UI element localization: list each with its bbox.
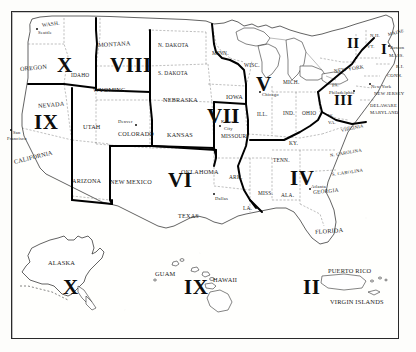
state-label: KANSAS: [167, 131, 193, 138]
city-label: Denver: [118, 119, 133, 124]
state-label: ARK.: [229, 174, 243, 180]
state-label: ALA.: [281, 192, 294, 198]
state-label: COLORADO: [118, 130, 154, 137]
city-label: New York: [371, 84, 391, 89]
region-numeral: I: [381, 42, 387, 57]
state-label: N. DAKOTA: [158, 42, 189, 48]
state-label: WISC.: [244, 62, 260, 68]
city-label: Francisco: [7, 136, 27, 141]
region-numeral: V: [256, 74, 272, 95]
state-label: IDAHO: [71, 72, 89, 78]
region-numeral: X: [57, 55, 73, 76]
city-label: Dallas: [215, 196, 228, 201]
region-numeral: IV: [290, 168, 314, 189]
state-label: MICH.: [283, 79, 299, 85]
state-label: NEW JERSEY: [374, 91, 404, 96]
inset-region-numeral: IX: [184, 277, 208, 298]
city-dot: [10, 129, 12, 131]
state-label: PA.: [332, 82, 340, 88]
state-label: DELAWARE: [370, 103, 397, 108]
state-label: ARIZONA: [72, 177, 101, 184]
state-label: IOWA: [226, 93, 243, 100]
state-label: W.: [328, 113, 334, 118]
state-label: LA.: [243, 205, 252, 211]
state-label: VT.: [367, 44, 375, 49]
territory-label: PUERTO RICO: [328, 267, 371, 274]
state-label: IND.: [283, 110, 295, 116]
city-label: San: [13, 130, 21, 135]
state-label: S. DAKOTA: [158, 70, 188, 76]
state-label: CONN.: [387, 73, 402, 78]
region-numeral: III: [334, 93, 353, 108]
city-label: Boston: [390, 45, 404, 50]
territory-label: HAWAII: [213, 276, 237, 283]
state-label: NEW MEXICO: [110, 178, 152, 185]
inset-region-numeral: X: [63, 277, 79, 298]
state-label: KY.: [289, 140, 298, 146]
state-label: MARYLAND: [370, 110, 398, 115]
territory-label: VIRGIN ISLANDS: [330, 298, 384, 305]
state-label: UTAH: [83, 123, 101, 130]
state-label: TENN.: [273, 157, 290, 163]
state-label: WYOMING: [93, 86, 126, 93]
state-label: VA.: [328, 120, 336, 125]
city-dot: [135, 124, 137, 126]
territory-label: ALASKA: [48, 259, 75, 266]
region-numeral: VII: [207, 106, 240, 127]
puerto-rico-inset: [321, 274, 387, 295]
region-numeral: VIII: [110, 55, 152, 76]
federal-regions-map: .coast{fill:#ffffff;stroke:#202020;strok…: [0, 0, 416, 352]
state-label: OHIO: [302, 110, 316, 116]
state-label: R.I.: [396, 64, 404, 69]
city-dot: [353, 90, 355, 92]
state-label: MISS.: [258, 190, 273, 196]
state-label: TEXAS: [178, 212, 199, 219]
territory-label: GUAM: [155, 270, 175, 277]
city-dot: [213, 193, 215, 195]
state-label: MISSOURI: [221, 133, 248, 139]
state-label: N.H.: [370, 33, 380, 38]
region-numeral: IX: [34, 112, 58, 133]
city-label: Seattle: [38, 30, 52, 35]
state-label: NEBRASKA: [163, 96, 198, 103]
state-label: MASS.: [389, 53, 404, 58]
city-dot: [36, 28, 38, 30]
state-label: ILL.: [257, 111, 268, 117]
alaska-inset: [20, 236, 104, 310]
city-dot: [369, 83, 371, 85]
city-dot: [388, 45, 390, 47]
inset-region-numeral: II: [303, 277, 320, 298]
state-label: MINN.: [212, 50, 229, 56]
region-numeral: VI: [168, 170, 192, 191]
region-numeral: II: [347, 36, 360, 51]
